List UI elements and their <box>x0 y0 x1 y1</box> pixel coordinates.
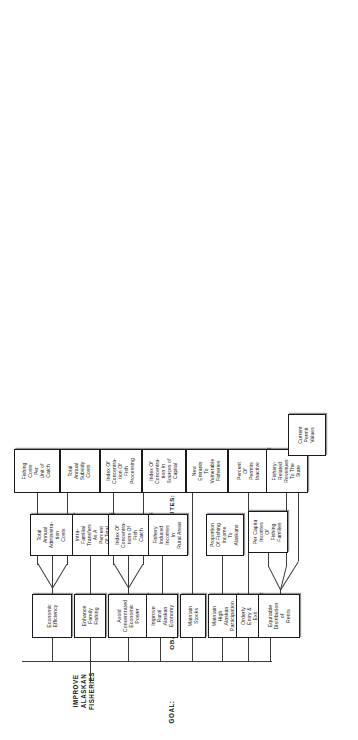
row-label-goal: GOAL: <box>168 692 176 732</box>
attribute-box-fishing-costs-per-unit-of-catch[interactable]: Fishing Costs Per Unit of Catch <box>14 449 60 493</box>
attribute-box-proportion-fishing-income-alaskans[interactable]: Proportion Of Fishing Income To Alaskans <box>206 514 244 556</box>
objective-box-avoid-concentrated-power[interactable]: Avoid Concentrated Economic Power <box>108 594 148 638</box>
attribute-box-per-capita-incomes-fishing-families[interactable]: Per Capita Incomes Of Fishing Families <box>248 511 288 553</box>
attribute-label: Intra- Familial Transfers As A Percent O… <box>75 524 110 546</box>
attribute-label: Index Of Concentra- tion In Sources of C… <box>149 458 178 484</box>
diagram-canvas: GOAL: OBJECTIVES: ATTRIBUTES: IMPROVE AL… <box>0 0 358 740</box>
objective-box-enhance-family-fishing[interactable]: Enhance Family Fishing <box>74 594 106 638</box>
attribute-box-fishery-induced-incomes-rural-areas[interactable]: Fishery Induced Incomes In Rural Areas <box>148 514 188 556</box>
objective-label: Enhance Family Fishing <box>81 605 99 626</box>
objective-box-improve-rural-economy[interactable]: Improve Rural Alaskan Economy <box>146 594 178 638</box>
objective-label: Equitable Distribution of Rents <box>267 602 292 629</box>
conn-ms-to-new-entrants <box>192 493 193 594</box>
attribute-label: Index Of Concentra- tion Of Fish Process… <box>106 458 135 484</box>
attribute-box-total-annual-subsidy-costs[interactable]: Total Annual Subsidy Costs <box>60 449 100 493</box>
rotated-diagram-group: GOAL: OBJECTIVES: ATTRIBUTES: IMPROVE AL… <box>0 0 358 740</box>
goal-stem <box>90 662 91 682</box>
attribute-label: Total Annual Subsidy Costs <box>68 462 92 481</box>
attribute-label: Percent Of Permits Inactive <box>237 462 261 480</box>
conn-ire-to-fishery-incomes <box>162 556 163 594</box>
attribute-label: Current Permit Values <box>298 426 316 443</box>
conn-acp-to-sources-capital-diag <box>128 564 143 589</box>
objective-box-economic-efficiency[interactable]: Economic Efficiency <box>32 594 72 638</box>
attribute-label: Fishery Induced Incomes In Rural Areas <box>153 521 182 548</box>
stub-objective-6 <box>222 638 223 662</box>
stub-objective-4 <box>160 638 161 662</box>
conn-ee-to-admin-costs <box>52 556 53 588</box>
stub-objective-2 <box>90 638 91 662</box>
objective-box-maintain-stocks[interactable]: Maintain Stocks <box>180 594 206 638</box>
objective-label: Avoid Concentrated Economic Power <box>116 600 141 632</box>
objective-label: Maintain Stocks <box>187 606 199 626</box>
objectives-spine <box>22 661 270 662</box>
attribute-label: Per Capita Incomes Of Fishing Families <box>253 520 282 545</box>
stub-objective-8 <box>270 638 271 662</box>
conn-acp-to-fish-processing-diag <box>114 563 129 588</box>
attribute-box-index-concentration-fish-processing[interactable]: Index Of Concentra- tion Of Fish Process… <box>100 449 142 493</box>
attribute-box-index-concentration-sources-capital[interactable]: Index Of Concentra- tion In Sources of C… <box>142 449 186 493</box>
conn-ee-to-subsidy-costs-diag <box>52 564 67 589</box>
attribute-box-percent-permits-inactive[interactable]: Percent Of Permits Inactive <box>228 449 270 493</box>
conn-edr-to-per-capita <box>268 553 269 567</box>
stub-objective-5 <box>192 638 193 662</box>
stub-objective-1 <box>52 638 53 662</box>
stub-objective-7 <box>248 638 249 662</box>
attribute-label: Proportion Of Fishing Income To Alaskans <box>210 523 239 547</box>
attribute-label: Fishing Costs Per Unit of Catch <box>22 463 51 480</box>
conn-edr-to-per-capita-diag <box>268 566 281 590</box>
conn-ee-to-fishing-costs-diag <box>38 563 53 588</box>
attribute-box-total-annual-administration-costs[interactable]: Total Annual Administra- tion Costs <box>30 514 74 556</box>
attribute-label: Fishery- Related Revenues To The State <box>272 459 301 482</box>
conn-mhp-to-proportion-income <box>222 556 223 594</box>
attribute-label: Total Annual Administra- tion Costs <box>37 522 66 548</box>
objective-box-maintain-high-participation[interactable]: Maintain High Alaskan Participation <box>208 594 238 638</box>
objectives-spine-lower <box>248 661 272 662</box>
objective-box-equitable-distribution[interactable]: Equitable Distribution of Rents <box>258 594 300 638</box>
objective-label: Improve Rural Alaskan Economy <box>150 605 175 627</box>
attribute-box-index-concentrations-fish-catch[interactable]: Index Of Concentra- tions Of Fish Catch <box>108 514 152 556</box>
attribute-label: New Entrants To Vulnerable Fisheries <box>192 459 221 484</box>
objective-label: Economic Efficiency <box>46 604 58 628</box>
stub-objective-3 <box>128 638 129 662</box>
conn-acp-to-fish-catch <box>128 556 129 588</box>
attribute-label: Index Of Concentra- tions Of Fish Catch <box>115 522 144 548</box>
attribute-box-current-permit-values[interactable]: Current Permit Values <box>288 414 326 456</box>
objective-label: Orderly Entry & Exit <box>240 607 258 625</box>
conn-eff-to-intra-familial <box>90 556 91 594</box>
objective-label: Maintain High Alaskan Participation <box>211 601 236 631</box>
attribute-box-new-entrants-vulnerable-fisheries[interactable]: New Entrants To Vulnerable Fisheries <box>186 449 228 493</box>
goal-title: IMPROVE ALASKAN FISHERIES <box>72 668 96 714</box>
